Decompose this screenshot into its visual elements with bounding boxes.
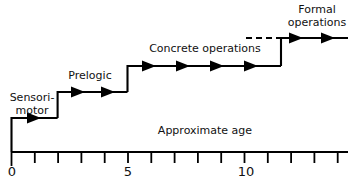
arrow-head-prelogic-1	[71, 87, 85, 98]
axis-tick-label-0: 0	[8, 164, 16, 177]
arrow-head-concrete-3	[210, 61, 224, 72]
step-diagram-figure: Sensori- motor Prelogic Concrete operati…	[0, 0, 351, 177]
stage-segment-concrete-operations	[128, 66, 282, 92]
axis-tick-label-5: 5	[124, 164, 132, 177]
label-formal-line1: Formal	[298, 3, 336, 16]
axis-tick-label-10: 10	[238, 164, 255, 177]
arrow-head-concrete-2	[176, 61, 190, 72]
label-formal-line2: operations	[288, 16, 347, 29]
arrow-head-formal-1	[289, 33, 303, 44]
label-concrete-operations: Concrete operations	[149, 42, 261, 55]
stage-segment-sensorimotor	[12, 118, 58, 152]
diagram-canvas: Sensori- motor Prelogic Concrete operati…	[0, 0, 351, 177]
arrow-head-prelogic-2	[101, 87, 115, 98]
label-approximate-age: Approximate age	[158, 124, 252, 137]
age-axis-ticks	[12, 152, 338, 166]
arrow-head-formal-2	[321, 33, 335, 44]
label-sensorimotor-line1: Sensori-	[10, 91, 55, 104]
arrow-head-concrete-4	[244, 61, 258, 72]
stage-segment-prelogic	[58, 92, 128, 118]
label-prelogic: Prelogic	[68, 69, 111, 82]
arrow-head-concrete-1	[142, 61, 156, 72]
label-sensorimotor-line2: motor	[15, 104, 48, 117]
